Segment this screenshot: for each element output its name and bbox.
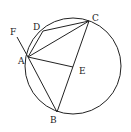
label-E: E bbox=[79, 66, 86, 76]
segment-AE bbox=[28, 57, 73, 67]
label-C: C bbox=[92, 13, 99, 23]
segment-DC bbox=[43, 21, 89, 31]
label-A: A bbox=[17, 56, 25, 66]
geometry-diagram: F D C A E B bbox=[0, 0, 131, 132]
segment-FA bbox=[17, 37, 28, 57]
label-F: F bbox=[10, 27, 16, 37]
label-D: D bbox=[33, 22, 40, 32]
segment-AB bbox=[28, 57, 57, 112]
label-B: B bbox=[50, 115, 57, 125]
